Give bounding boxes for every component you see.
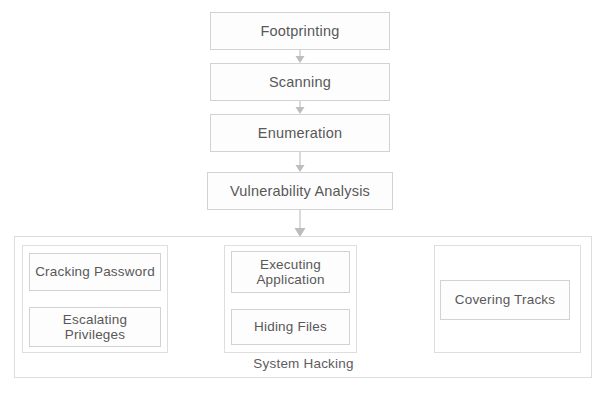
arrow-vulnerability-to-system-hacking bbox=[295, 210, 306, 237]
system-hacking-label: System Hacking bbox=[0, 356, 607, 371]
node-escalating-privileges[interactable]: Escalating Privileges bbox=[29, 307, 161, 347]
arrow-enumeration-to-vulnerability bbox=[296, 152, 305, 172]
hacking-phases-diagram: Footprinting Scanning Enumeration Vulner… bbox=[0, 0, 607, 393]
node-escalating-line1: Escalating bbox=[63, 312, 127, 327]
node-hiding-files[interactable]: Hiding Files bbox=[231, 309, 350, 345]
stage-vulnerability-analysis[interactable]: Vulnerability Analysis bbox=[207, 172, 393, 210]
stage-enumeration[interactable]: Enumeration bbox=[210, 114, 390, 152]
node-covering-tracks[interactable]: Covering Tracks bbox=[440, 280, 570, 320]
arrow-scanning-to-enumeration bbox=[296, 101, 305, 114]
node-escalating-line2: Privileges bbox=[65, 327, 126, 342]
stage-scanning[interactable]: Scanning bbox=[210, 63, 390, 101]
node-executing-line2: Application bbox=[256, 272, 324, 287]
node-cracking-password[interactable]: Cracking Password bbox=[29, 253, 161, 291]
stage-footprinting[interactable]: Footprinting bbox=[210, 12, 390, 50]
node-executing-application[interactable]: Executing Application bbox=[231, 251, 350, 293]
arrow-footprinting-to-scanning bbox=[296, 50, 305, 63]
node-executing-line1: Executing bbox=[260, 257, 321, 272]
